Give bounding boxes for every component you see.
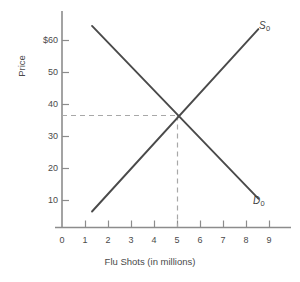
y-tick-label-30: 30 (14, 131, 58, 141)
x-tick-label-9: 9 (259, 235, 279, 245)
x-tick-label-0: 0 (52, 235, 72, 245)
supply-curve-label: S0 (259, 20, 270, 31)
supply-curve-label-text: S (259, 20, 266, 31)
x-axis-title: Flu Shots (in millions) (0, 256, 300, 267)
x-tick-label-1: 1 (75, 235, 95, 245)
y-tick-label-20: 20 (14, 163, 58, 173)
x-tick-label-3: 3 (121, 235, 141, 245)
x-tick-label-2: 2 (98, 235, 118, 245)
y-tick-label-10: 10 (14, 195, 58, 205)
x-tick-label-8: 8 (236, 235, 256, 245)
y-axis-ticks (62, 41, 69, 201)
demand-curve-d0 (92, 26, 258, 199)
x-tick-label-5: 5 (167, 235, 187, 245)
x-tick-label-4: 4 (144, 235, 164, 245)
x-tick-label-6: 6 (190, 235, 210, 245)
demand-curve-label-text: D (253, 195, 260, 206)
supply-curve-s0 (92, 29, 258, 211)
demand-curve-label: D0 (253, 195, 264, 206)
y-axis-title: Price (16, 36, 27, 96)
supply-demand-chart: $60 50 40 30 20 10 0 1 2 3 4 5 6 7 8 9 P… (0, 0, 300, 282)
x-tick-label-7: 7 (213, 235, 233, 245)
supply-curve-label-subscript: 0 (266, 24, 270, 33)
demand-curve-label-subscript: 0 (261, 199, 265, 208)
y-tick-label-40: 40 (14, 99, 58, 109)
